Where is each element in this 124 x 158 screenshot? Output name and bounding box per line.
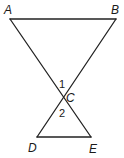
diagram-canvas: A B C D E 1 2 [0,0,124,158]
geometry-diagram: A B C D E 1 2 [0,0,124,158]
label-d: D [28,141,37,155]
label-e: E [89,142,98,156]
segment-bd [37,19,116,137]
label-b: B [111,3,119,17]
angle-1-label: 1 [59,78,65,90]
label-c: C [66,91,75,105]
angle-2-label: 2 [59,107,65,119]
label-a: A [3,3,12,17]
segment-ae [10,19,91,137]
